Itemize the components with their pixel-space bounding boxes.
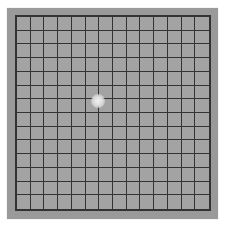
grid-cell [86,127,100,141]
grid-cell [31,31,45,45]
grid-cell [44,99,58,113]
grid-cell [113,99,127,113]
grid-cell [182,99,196,113]
grid-cell [31,127,45,141]
grid-cell [99,44,113,58]
grid-cell [113,154,127,168]
grid-cell [195,86,209,100]
grid-cell [17,99,31,113]
grid-cell [195,195,209,209]
grid-cell [182,113,196,127]
grid-cell [44,72,58,86]
grid-cell [31,140,45,154]
grid-cell [58,17,72,31]
grid-cell [58,195,72,209]
grid-cell [44,86,58,100]
grid-cell [127,58,141,72]
grid-cell [58,31,72,45]
grid-cell [154,154,168,168]
grid-cell [113,168,127,182]
grid-cell [127,31,141,45]
grid-cell [72,58,86,72]
grid-cell [113,44,127,58]
fixation-dot [91,94,105,108]
grid-cell [140,17,154,31]
grid-cell [86,72,100,86]
grid-cell [168,99,182,113]
grid-cell [17,31,31,45]
grid-cell [72,72,86,86]
grid-cell [127,127,141,141]
grid-cell [72,140,86,154]
grid-cell [127,17,141,31]
grid-cell [168,168,182,182]
grid-cell [154,44,168,58]
grid-cell [154,99,168,113]
grid-cell [182,72,196,86]
grid-cell [99,154,113,168]
grid-cell [154,182,168,196]
grid-cell [154,31,168,45]
grid-cell [154,72,168,86]
grid-cell [86,44,100,58]
grid-cell [168,72,182,86]
grid-cell [195,72,209,86]
grid-cell [168,113,182,127]
grid-cell [44,154,58,168]
grid-cell [140,99,154,113]
grid-cell [154,58,168,72]
grid-cell [31,58,45,72]
grid-cell [99,58,113,72]
grid-cell [72,113,86,127]
grid-cell [72,31,86,45]
grid-cell [17,195,31,209]
grid-cell [58,168,72,182]
grid-cell [127,195,141,209]
grid-cell [154,127,168,141]
grid-cell [140,182,154,196]
grid-cell [86,58,100,72]
grid-cell [44,58,58,72]
grid-cell [195,154,209,168]
grid-cell [72,154,86,168]
grid-cell [168,86,182,100]
grid-cell [44,31,58,45]
grid-cell [113,113,127,127]
grid-cell [127,168,141,182]
grid-cell [17,140,31,154]
grid-cell [58,99,72,113]
grid-cell [168,44,182,58]
grid-cell [17,127,31,141]
grid-cell [86,17,100,31]
grid-cell [31,168,45,182]
grid-cell [195,127,209,141]
grid-cell [182,168,196,182]
grid-cell [58,44,72,58]
grid-cell [31,72,45,86]
grid-cell [113,31,127,45]
grid-cell [17,154,31,168]
grid-cell [140,140,154,154]
grid-cell [168,195,182,209]
grid-cell [99,17,113,31]
grid-cell [113,17,127,31]
grid-cell [113,127,127,141]
grid-cell [44,168,58,182]
grid-cell [58,127,72,141]
grid-cell [17,72,31,86]
grid-cell [86,195,100,209]
grid-cell [58,58,72,72]
grid-cell [168,127,182,141]
grid-cell [182,31,196,45]
grid-cell [182,154,196,168]
grid-cell [72,182,86,196]
grid-cell [58,182,72,196]
grid-cell [44,113,58,127]
grid-cell [127,86,141,100]
grid-cell [195,140,209,154]
grid-cell [168,17,182,31]
grid-cell [154,140,168,154]
grid-cell [182,182,196,196]
grid-cell [17,182,31,196]
grid-cell [44,195,58,209]
